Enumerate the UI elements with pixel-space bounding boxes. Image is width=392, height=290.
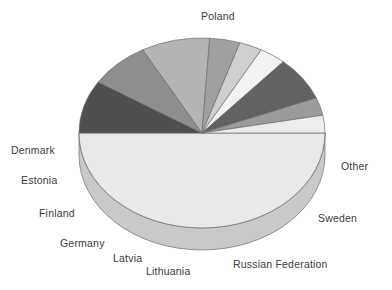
slice-label-lithuania: Lithuania [146,265,190,277]
slice-label-latvia: Latvia [113,252,142,264]
pie-chart-canvas [0,0,392,290]
slice-label-denmark: Denmark [11,144,55,156]
slice-label-germany: Germany [60,237,105,249]
slice-label-russian-federation: Russian Federation [233,258,328,270]
slice-label-poland: Poland [201,10,235,22]
slice-label-sweden: Sweden [318,212,357,224]
pie-chart-figure: Poland Other Sweden Russian Federation L… [0,0,392,290]
pie-top-slices [79,38,325,228]
slice-label-finland: Finland [39,207,75,219]
slice-label-estonia: Estonia [21,174,57,186]
slice-label-other: Other [341,160,368,172]
